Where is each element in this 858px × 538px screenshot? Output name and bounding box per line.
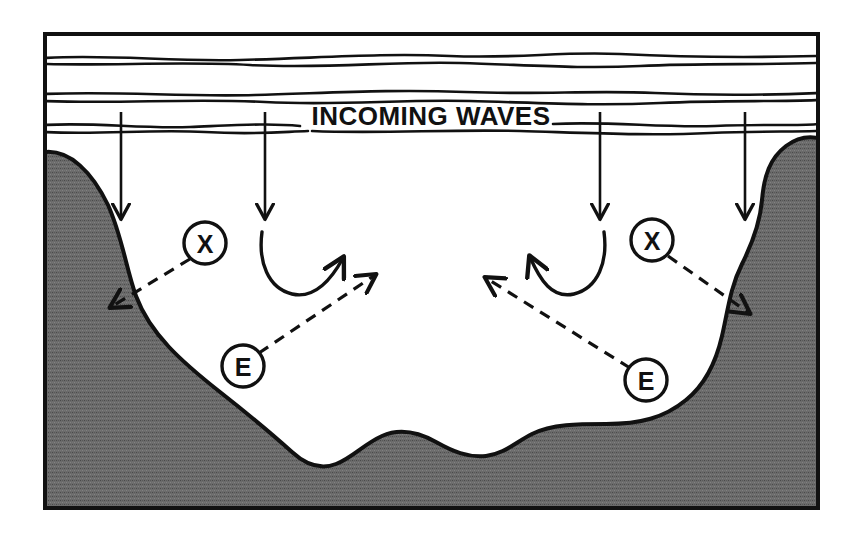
marker-e-left[interactable]: E: [222, 345, 264, 387]
coastal-erosion-diagram: INCOMING WAVES: [0, 0, 858, 538]
marker-x-left-label: X: [197, 230, 214, 258]
marker-x-right-label: X: [644, 227, 661, 255]
marker-e-right-label: E: [638, 367, 655, 395]
marker-x-right[interactable]: X: [631, 219, 673, 261]
marker-x-left[interactable]: X: [184, 222, 226, 264]
incoming-waves-label: INCOMING WAVES: [311, 101, 550, 131]
marker-e-right[interactable]: E: [625, 359, 667, 401]
marker-e-left-label: E: [235, 353, 252, 381]
wave-erosion-figure: INCOMING WAVES: [0, 0, 858, 538]
diagram-content: INCOMING WAVES: [45, 34, 818, 508]
